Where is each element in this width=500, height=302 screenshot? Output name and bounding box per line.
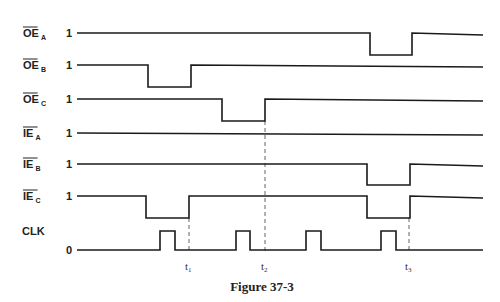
signal-label-iec: IEC — [23, 190, 40, 204]
waveform-oec — [77, 99, 483, 121]
signal-level-ieb: 1 — [66, 158, 72, 170]
signal-level-oeb: 1 — [66, 59, 72, 71]
signal-label-iea: IEA — [23, 127, 40, 141]
figure-caption: Figure 37-3 — [230, 279, 294, 294]
signal-label-oec: OEC — [23, 93, 46, 107]
timing-diagram-figure: t1t2t3OEA1OEB1OEC1IEA1IEB1IEC1CLK0Figure… — [0, 0, 500, 302]
time-marker-label-t3: t3 — [405, 260, 412, 274]
signal-level-clk: 0 — [66, 244, 72, 256]
waveform-ieb — [77, 164, 483, 185]
signal-label-oea: OEA — [23, 27, 46, 41]
signal-label-ieb: IEB — [23, 158, 40, 172]
signal-label-clk: CLK — [22, 225, 45, 237]
signal-level-iea: 1 — [66, 127, 72, 139]
time-marker-label-t1: t1 — [185, 260, 192, 274]
waveform-iec — [77, 196, 483, 218]
signal-level-iec: 1 — [66, 190, 72, 202]
time-marker-label-t2: t2 — [261, 260, 268, 274]
waveform-oeb — [77, 65, 483, 87]
signal-level-oec: 1 — [66, 93, 72, 105]
signal-label-oeb: OEB — [23, 59, 46, 73]
waveform-iea — [77, 133, 483, 135]
signal-level-oea: 1 — [66, 27, 72, 39]
waveform-oea — [77, 33, 483, 55]
waveform-clk — [77, 231, 483, 250]
timing-diagram: t1t2t3OEA1OEB1OEC1IEA1IEB1IEC1CLK0Figure… — [0, 0, 500, 302]
